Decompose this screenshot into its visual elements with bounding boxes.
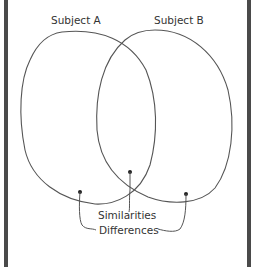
differences-bracket-right: [158, 194, 186, 231]
venn-diagram: Subject A Subject B Similarities Differe…: [0, 0, 253, 267]
similarities-label: Similarities: [98, 209, 156, 221]
similarity-leader-line: [129, 172, 130, 212]
differences-bracket: [79, 192, 96, 230]
subject-b-circle: [97, 30, 232, 202]
differences-label: Differences: [99, 224, 159, 236]
subject-b-label: Subject B: [154, 14, 204, 26]
diagram-frame: Subject A Subject B Similarities Differe…: [0, 0, 253, 267]
subject-a-circle: [21, 31, 156, 204]
subject-a-label: Subject A: [51, 14, 102, 26]
